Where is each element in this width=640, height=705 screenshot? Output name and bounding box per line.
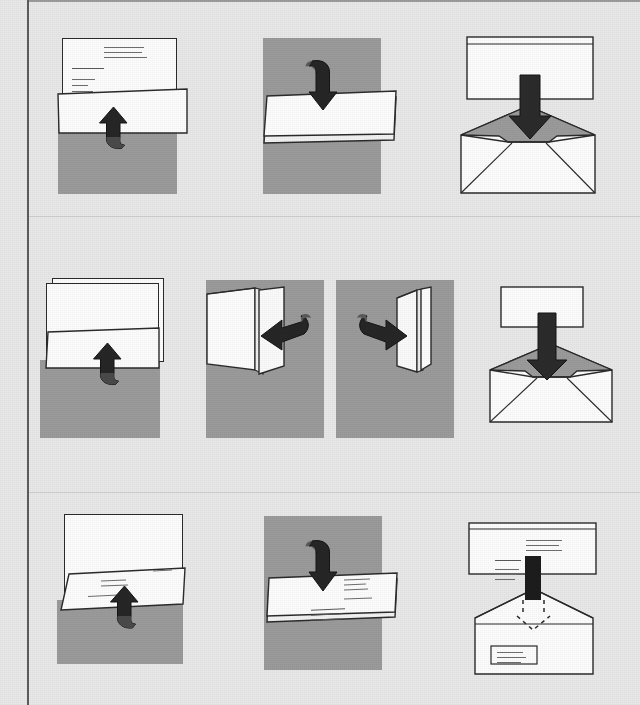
curved-left-arrow-icon xyxy=(256,312,316,354)
curved-up-arrow-icon xyxy=(88,340,134,388)
step-fold-bottom-third-up xyxy=(58,38,190,194)
step-fold-top-down-text-visible xyxy=(255,516,415,670)
straight-down-arrow-icon xyxy=(526,312,572,382)
step-fold-left-half-across xyxy=(200,280,340,438)
row-divider-2 xyxy=(29,492,640,493)
figure-sheet xyxy=(0,0,640,705)
step-fold-sheet-in-half-up xyxy=(40,278,182,438)
dashed-down-arrow-icon xyxy=(513,598,557,634)
row-divider-1 xyxy=(29,216,640,217)
step-fold-bottom-up-text-out xyxy=(57,514,207,664)
letter-text-line xyxy=(104,47,144,48)
window-address-line xyxy=(497,652,523,653)
page-border-left xyxy=(27,0,29,705)
letter-text-line xyxy=(104,57,147,58)
step-insert-into-envelope xyxy=(452,36,612,196)
letter-text-line xyxy=(495,569,519,570)
step-insert-into-small-envelope xyxy=(474,286,614,434)
letter-text-line xyxy=(526,540,562,541)
curved-right-arrow-icon xyxy=(352,312,414,354)
letter-text-line xyxy=(495,579,515,580)
letter-text-line xyxy=(495,560,521,561)
step-fold-right-half-across xyxy=(336,280,468,438)
curved-down-arrow-icon xyxy=(304,58,352,118)
letter-text-line xyxy=(72,79,95,80)
letter-text-line xyxy=(104,52,142,53)
page-border-top xyxy=(27,0,640,2)
step-insert-into-window-envelope xyxy=(455,522,615,672)
letter-text-line xyxy=(495,574,517,575)
curved-down-arrow-icon xyxy=(304,538,352,600)
straight-down-arrow-icon xyxy=(507,74,555,142)
straight-down-arrow-icon xyxy=(523,556,545,602)
window-address-line xyxy=(497,657,526,658)
window-address-line xyxy=(497,662,521,663)
letter-text-line xyxy=(72,68,104,69)
letter-text-line xyxy=(526,545,559,546)
curved-up-arrow-icon xyxy=(94,104,140,152)
letter-text-line xyxy=(526,550,562,551)
curved-up-arrow-icon xyxy=(105,582,151,632)
step-fold-top-third-down xyxy=(255,38,405,194)
